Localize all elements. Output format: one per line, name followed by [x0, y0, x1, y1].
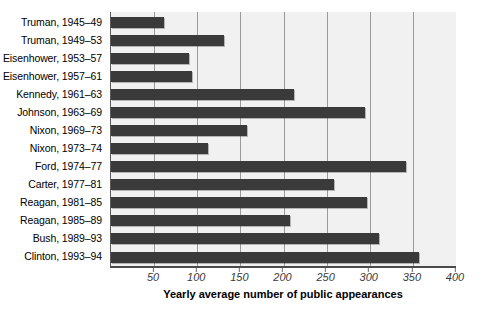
x-tick: 250	[316, 268, 334, 283]
bar	[111, 197, 367, 208]
category-label: Ford, 1974–77	[0, 157, 106, 175]
x-tick: 350	[403, 268, 421, 283]
bar-row	[111, 194, 456, 212]
bar	[111, 17, 164, 28]
bar	[111, 89, 294, 100]
bar	[111, 252, 419, 263]
bar-row	[111, 230, 456, 248]
bar-series	[111, 12, 456, 266]
bar-row	[111, 212, 456, 230]
tick-label: 50	[147, 271, 159, 283]
bar-row	[111, 67, 456, 85]
bar-row	[111, 176, 456, 194]
category-axis-labels: Truman, 1945–49Truman, 1949–53Eisenhower…	[0, 13, 106, 265]
bar-row	[111, 13, 456, 31]
bar	[111, 35, 224, 46]
bar-row	[111, 248, 456, 266]
category-label: Clinton, 1993–94	[0, 247, 106, 265]
x-tick: 50	[147, 268, 159, 283]
category-label: Reagan, 1985–89	[0, 211, 106, 229]
bar	[111, 179, 334, 190]
tick-label: 250	[316, 271, 334, 283]
bar	[111, 161, 406, 172]
category-label: Eisenhower, 1953–57	[0, 49, 106, 67]
tick-label: 300	[360, 271, 378, 283]
category-label: Nixon, 1969–73	[0, 121, 106, 139]
category-label: Carter, 1977–81	[0, 175, 106, 193]
x-tick: 100	[187, 268, 205, 283]
bar-row	[111, 85, 456, 103]
x-axis-title: Yearly average number of public appearan…	[110, 288, 456, 300]
category-label: Bush, 1989–93	[0, 229, 106, 247]
bar	[111, 215, 290, 226]
x-axis-ticks: 50100150200250300350400	[110, 268, 456, 284]
tick-label: 200	[273, 271, 291, 283]
bar	[111, 143, 208, 154]
bar	[111, 125, 247, 136]
bar	[111, 71, 192, 82]
category-label: Truman, 1949–53	[0, 31, 106, 49]
bar-row	[111, 49, 456, 67]
tick-label: 400	[446, 271, 464, 283]
x-tick: 150	[230, 268, 248, 283]
bar-row	[111, 103, 456, 121]
category-label: Truman, 1945–49	[0, 13, 106, 31]
bar	[111, 233, 379, 244]
bar-row	[111, 158, 456, 176]
category-label: Eisenhower, 1957–61	[0, 67, 106, 85]
tick-label: 350	[403, 271, 421, 283]
tick-label: 150	[230, 271, 248, 283]
category-label: Nixon, 1973–74	[0, 139, 106, 157]
bar-row	[111, 121, 456, 139]
category-label: Johnson, 1963–69	[0, 103, 106, 121]
bar-row	[111, 140, 456, 158]
bar	[111, 107, 365, 118]
x-tick: 300	[360, 268, 378, 283]
x-tick: 200	[273, 268, 291, 283]
bar-row	[111, 31, 456, 49]
plot-area	[110, 12, 456, 266]
category-label: Reagan, 1981–85	[0, 193, 106, 211]
bar-chart: Truman, 1945–49Truman, 1949–53Eisenhower…	[0, 0, 491, 310]
x-tick: 400	[446, 268, 464, 283]
bar	[111, 53, 189, 64]
tick-label: 100	[187, 271, 205, 283]
category-label: Kennedy, 1961–63	[0, 85, 106, 103]
